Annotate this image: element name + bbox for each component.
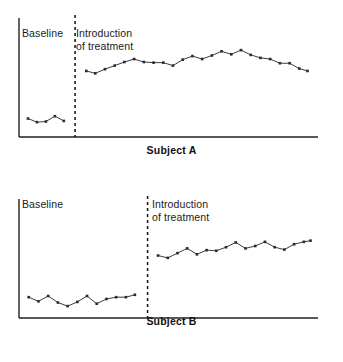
data-point-marker [157,254,160,257]
data-point-marker [220,50,223,53]
data-point-marker [230,53,233,56]
data-point-marker [225,246,228,249]
data-point-marker [186,247,189,250]
data-point-marker [47,295,50,298]
data-point-marker [76,301,79,304]
data-point-marker [66,305,69,308]
data-point-marker [123,61,126,64]
data-point-marker [105,298,108,301]
data-point-marker [134,294,137,297]
data-point-marker [176,252,179,255]
chart-panel-subject-a: Baseline Introduction of treatment Subje… [0,0,343,181]
data-point-marker [36,121,39,124]
data-point-marker [279,62,282,65]
data-point-marker [298,67,301,70]
data-point-marker [37,300,40,303]
data-point-marker [288,62,291,65]
data-point-marker [196,253,199,256]
data-point-marker [45,120,48,123]
data-point-marker [264,241,267,244]
data-point-marker [215,249,218,252]
data-point-marker [283,248,286,251]
data-point-marker [309,239,312,242]
series-line-treatment-subject-b [158,241,310,258]
data-point-marker [201,58,204,61]
data-point-marker [306,70,309,73]
data-point-marker [240,49,243,52]
data-point-marker [125,296,128,299]
data-point-marker [244,247,247,250]
data-point-marker [54,115,57,118]
data-point-marker [143,61,146,64]
data-point-marker [172,64,175,67]
data-point-marker [94,72,97,75]
data-point-marker [234,241,237,244]
data-point-marker [166,257,169,260]
data-point-marker [191,55,194,58]
data-point-marker [303,241,306,244]
data-point-marker [27,296,30,299]
caption-subject-b: Subject B [0,315,343,327]
data-point-marker [86,295,89,298]
data-point-marker [113,64,116,67]
phase-label-treatment-a: Introduction of treatment [76,27,133,52]
data-point-marker [273,246,276,249]
data-point-marker [27,117,30,120]
data-point-marker [95,302,98,305]
series-line-treatment-subject-a [86,50,307,73]
data-point-marker [293,243,296,246]
data-point-marker [205,249,208,252]
data-point-marker [269,58,272,61]
phase-label-treatment-b: Introduction of treatment [152,198,209,223]
data-point-marker [162,61,165,64]
data-point-marker [104,68,107,71]
data-point-marker [181,58,184,61]
data-point-marker [85,70,88,73]
data-point-marker [249,54,252,57]
data-point-marker [152,61,155,64]
series-line-baseline-subject-b [29,295,135,306]
data-point-marker [57,301,60,304]
data-point-marker [63,120,66,123]
data-point-marker [133,58,136,61]
data-point-marker [211,54,214,57]
caption-subject-a: Subject A [0,144,343,156]
phase-label-baseline-a: Baseline [22,27,63,40]
data-point-marker [259,57,262,60]
data-point-marker [254,245,257,248]
data-point-marker [115,296,118,299]
single-subject-design-figure: Baseline Introduction of treatment Subje… [0,0,343,362]
phase-label-baseline-b: Baseline [22,198,63,211]
